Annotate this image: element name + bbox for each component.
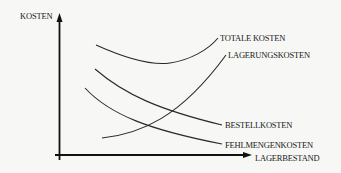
label-totale-kosten: TOTALE KOSTEN: [220, 33, 285, 43]
cost-diagram: KOSTEN TOTALE KOSTEN LAGERUNGSKOSTEN BES…: [0, 0, 341, 173]
x-axis-label: LAGERBESTAND: [255, 153, 320, 163]
label-fehlmengenkosten: FEHLMENGENKOSTEN: [225, 140, 313, 150]
y-axis-arrow-icon: [57, 13, 63, 22]
curve-totale-kosten: [96, 38, 218, 64]
curve-lagerungskosten: [102, 55, 226, 138]
curve-fehlmengenkosten: [85, 88, 222, 144]
y-axis-label: KOSTEN: [20, 11, 52, 21]
curve-bestellkosten: [95, 69, 222, 125]
x-axis-arrow-icon: [243, 152, 252, 158]
label-bestellkosten: BESTELLKOSTEN: [225, 120, 292, 130]
label-lagerungskosten: LAGERUNGSKOSTEN: [228, 50, 310, 60]
